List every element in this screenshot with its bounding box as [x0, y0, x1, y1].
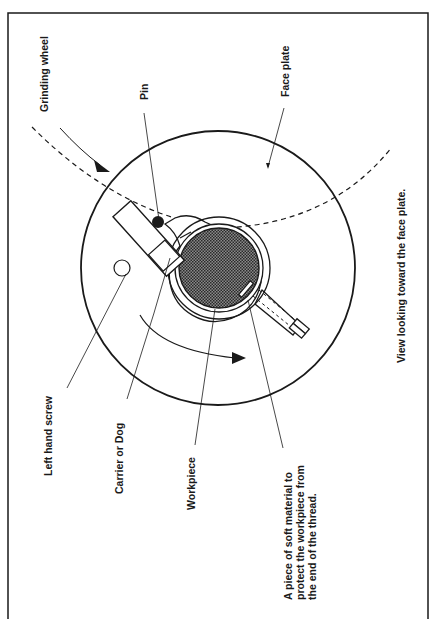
label-carrier-or-dog: Carrier or Dog — [113, 423, 125, 494]
label-grinding-wheel: Grinding wheel — [38, 36, 50, 112]
left-hand-screw-circle — [114, 260, 130, 276]
grinding-wheel-arrow — [60, 128, 110, 172]
label-face-plate: Face plate — [279, 45, 291, 97]
label-soft-material-1: A piece of soft material to — [282, 472, 294, 600]
label-soft-material-2: protect the workpiece from — [294, 465, 306, 600]
label-caption: View looking toward the face plate. — [395, 189, 407, 363]
face-plate-diagram: Grinding wheel Pin Face plate View looki… — [0, 0, 436, 619]
face-plate-leader-arrow — [266, 163, 270, 169]
grinding-wheel-arc — [32, 127, 392, 228]
label-left-hand-screw: Left hand screw — [42, 395, 54, 476]
pin-dot — [152, 216, 164, 228]
label-soft-material-3: the end of the thread. — [306, 493, 318, 600]
label-pin: Pin — [138, 84, 150, 100]
workpiece-circle — [179, 228, 259, 308]
label-workpiece: Workpiece — [185, 457, 197, 510]
rotation-arrowhead — [232, 352, 246, 364]
